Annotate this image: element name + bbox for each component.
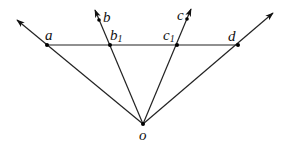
ray-ob-arrow-icon [95, 10, 143, 124]
point-d [236, 43, 240, 47]
point-a [45, 43, 49, 47]
point-b1 [108, 43, 112, 47]
label-c: c [177, 7, 184, 23]
ray-oa-arrow-icon [17, 20, 143, 124]
vector-diagram: a b b1 c c1 d o [0, 0, 290, 144]
point-c [185, 17, 189, 21]
label-b1: b1 [110, 27, 123, 44]
label-c1-subscript: 1 [170, 33, 175, 44]
label-c1: c1 [163, 27, 175, 44]
point-o [141, 122, 145, 126]
label-a: a [45, 27, 53, 43]
point-c1 [175, 43, 179, 47]
label-b1-subscript: 1 [118, 33, 123, 44]
label-b: b [103, 9, 111, 25]
label-o: o [139, 127, 147, 143]
label-d: d [228, 28, 236, 44]
point-b [97, 18, 101, 22]
diagram-svg: a b b1 c c1 d o [0, 0, 290, 144]
